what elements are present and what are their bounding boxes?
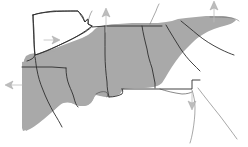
coastline-gulf-east xyxy=(190,90,195,143)
coastline-north-tennessee xyxy=(150,4,159,24)
coastline-arkansas-river xyxy=(88,11,92,22)
coastline-atlantic-southeast xyxy=(198,88,237,139)
map-figure xyxy=(0,0,248,147)
map-canvas[interactable] xyxy=(0,0,248,147)
interior-line-florida-bay xyxy=(160,89,192,94)
marker-left-west[interactable] xyxy=(5,81,22,89)
